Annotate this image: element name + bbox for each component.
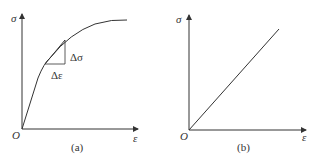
panel-b: [189, 15, 306, 130]
panel-a-epsilon-label: ε: [133, 133, 137, 144]
diagram-canvas: [0, 0, 315, 168]
panel-b-epsilon-label: ε: [302, 132, 306, 143]
panel-a-tangent-line: [45, 40, 65, 64]
panel-a-curve: [22, 20, 127, 129]
panel-b-linear-line: [189, 29, 279, 130]
panel-a-caption: (a): [71, 142, 83, 153]
panel-a-delta-sigma-label: Δσ: [70, 52, 83, 63]
panel-b-sigma-label: σ: [176, 14, 181, 25]
panel-a-origin-label: O: [12, 130, 20, 141]
panel-a-delta-epsilon-label: Δε: [51, 70, 63, 81]
panel-a-sigma-label: σ: [11, 13, 16, 24]
panel-a: [22, 14, 138, 129]
panel-b-origin-label: O: [180, 131, 188, 142]
panel-b-caption: (b): [237, 142, 250, 153]
